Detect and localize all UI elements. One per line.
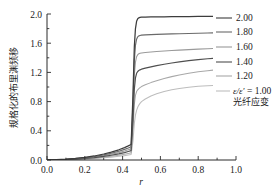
epsilon-ratio-value: = 1.00: [245, 86, 272, 96]
x-tick-label-0.0: 0.0: [41, 165, 53, 175]
x-tick-label-0.2: 0.2: [79, 165, 91, 175]
x-tick-label-1.0: 1.0: [230, 165, 242, 175]
y-tick-label-0.0: 0.0: [30, 156, 42, 166]
y-tick-label-1.6: 1.6: [30, 39, 42, 49]
y-tick-label-0.4: 0.4: [30, 126, 42, 136]
legend-label-1.80: 1.80: [236, 27, 253, 37]
legend-strain-note: 光纤应变: [233, 96, 269, 107]
legend-label-2.00: 2.00: [236, 13, 253, 23]
y-tick-label-1.2: 1.2: [30, 68, 42, 78]
x-tick-label-0.6: 0.6: [154, 165, 166, 175]
legend-label-1.00: ε/ε' = 1.00: [233, 86, 272, 96]
y-axis-title: 规格化的布里渊频移: [8, 47, 19, 128]
y-tick-label-0.8: 0.8: [30, 97, 42, 107]
x-tick-label-0.4: 0.4: [117, 165, 129, 175]
legend-label-1.60: 1.60: [236, 42, 253, 52]
x-axis-title: r: [139, 177, 143, 187]
chart-figure: 2.0 1.6 1.2 0.8 0.4 0.0 0.0 0.2 0.4 0.6 …: [0, 0, 279, 191]
x-tick-label-0.8: 0.8: [192, 165, 204, 175]
legend-label-1.20: 1.20: [236, 71, 253, 81]
y-tick-label-2.0: 2.0: [30, 10, 42, 20]
legend-label-1.40: 1.40: [236, 57, 253, 67]
brillouin-frequency-shift-chart: 2.0 1.6 1.2 0.8 0.4 0.0 0.0 0.2 0.4 0.6 …: [0, 0, 279, 191]
